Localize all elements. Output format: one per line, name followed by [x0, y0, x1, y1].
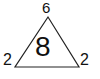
left-number: 2: [3, 52, 12, 68]
center-number: 8: [35, 33, 51, 61]
top-number: 6: [42, 0, 50, 15]
right-number: 2: [80, 52, 89, 68]
